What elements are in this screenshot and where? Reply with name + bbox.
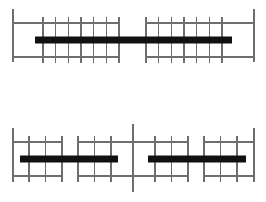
lower-beam-diagram xyxy=(0,110,266,202)
load-bar-right xyxy=(148,156,246,163)
load-bar-left xyxy=(20,156,118,163)
upper-beam-svg xyxy=(0,0,266,101)
figure-canvas xyxy=(0,0,266,202)
upper-beam-diagram xyxy=(0,0,266,101)
lower-beam-svg xyxy=(0,110,266,202)
main-load-bar xyxy=(35,37,232,44)
